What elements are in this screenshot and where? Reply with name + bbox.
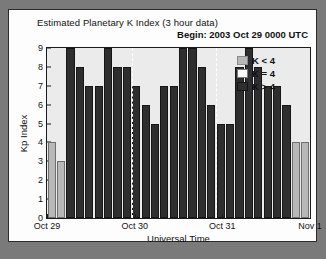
- bar: [142, 105, 150, 218]
- y-tick-label: 1: [38, 194, 43, 204]
- bar: [123, 67, 131, 218]
- legend-label: K < 4: [252, 55, 275, 66]
- chart-subtitle: Begin: 2003 Oct 29 0000 UTC: [177, 29, 308, 40]
- legend-swatch: [237, 82, 248, 91]
- bar: [113, 67, 121, 218]
- y-tick-label: 8: [38, 62, 43, 72]
- legend-item: K < 4: [237, 54, 303, 66]
- y-axis-label: Kp Index: [17, 47, 31, 219]
- y-tick-label: 7: [38, 81, 43, 91]
- bar: [66, 48, 74, 218]
- x-tick-label: Oct 31: [209, 221, 236, 231]
- y-tick-label: 3: [38, 156, 43, 166]
- bar: [292, 142, 300, 218]
- bar: [85, 86, 93, 218]
- x-tick-label: Oct 30: [121, 221, 148, 231]
- day-separator-line: [216, 48, 217, 218]
- chart-panel: Estimated Planetary K Index (3 hour data…: [8, 9, 317, 242]
- bar: [95, 86, 103, 218]
- bar: [264, 86, 272, 218]
- x-tick-mark: [135, 214, 136, 218]
- bar: [160, 86, 168, 218]
- legend-label: K = 4: [252, 68, 275, 79]
- chart-legend: K < 4K = 4K > 4: [237, 54, 303, 93]
- bar: [104, 48, 112, 218]
- legend-item: K > 4: [237, 80, 303, 92]
- legend-swatch: [237, 69, 248, 78]
- bar: [151, 124, 159, 218]
- chart-title: Estimated Planetary K Index (3 hour data…: [37, 17, 218, 28]
- legend-swatch: [237, 56, 248, 65]
- y-tick-label: 6: [38, 100, 43, 110]
- bar: [170, 86, 178, 218]
- screenshot-frame: Estimated Planetary K Index (3 hour data…: [0, 0, 326, 259]
- bar: [76, 67, 84, 218]
- x-tick-label: Nov 1: [298, 221, 322, 231]
- x-tick-mark: [222, 214, 223, 218]
- legend-label: K > 4: [252, 81, 275, 92]
- y-tick-label: 5: [38, 119, 43, 129]
- x-tick-label: Oct 29: [34, 221, 61, 231]
- bar: [301, 142, 309, 218]
- x-axis-label: Universal Time: [46, 233, 311, 244]
- bar: [48, 142, 56, 218]
- y-tick-label: 2: [38, 175, 43, 185]
- bar: [188, 48, 196, 218]
- bar: [132, 86, 140, 218]
- bar: [198, 67, 206, 218]
- bar: [207, 105, 215, 218]
- bar: [226, 124, 234, 218]
- y-axis-label-text: Kp Index: [19, 114, 30, 152]
- bar: [273, 86, 281, 218]
- y-tick-label: 9: [38, 43, 43, 53]
- x-tick-mark: [310, 214, 311, 218]
- bar: [179, 48, 187, 218]
- legend-item: K = 4: [237, 67, 303, 79]
- day-separator-line: [132, 48, 133, 218]
- bar: [282, 105, 290, 218]
- bar: [57, 161, 65, 218]
- bar: [217, 124, 225, 218]
- y-tick-label: 4: [38, 137, 43, 147]
- x-tick-mark: [47, 214, 48, 218]
